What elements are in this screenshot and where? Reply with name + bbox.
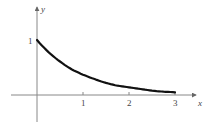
exponential-decay-chart: 1 2 3 1 x y — [0, 0, 210, 123]
decay-curve — [37, 40, 175, 92]
x-tick-label-3: 3 — [173, 98, 178, 108]
x-tick-label-1: 1 — [81, 98, 86, 108]
x-tick-label-2: 2 — [127, 98, 132, 108]
y-axis-label: y — [40, 4, 45, 14]
x-axis-label: x — [197, 98, 202, 108]
y-tick-label-1: 1 — [28, 36, 33, 46]
